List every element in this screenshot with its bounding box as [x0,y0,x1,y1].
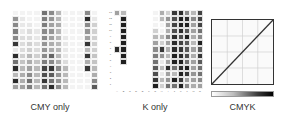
y-tick-label: 13 [108,12,113,15]
y-tick-label: 4 [108,66,113,69]
heatmap-cell [91,84,98,90]
y-tick-label: 3 [108,72,113,75]
heatmap-cell [197,83,203,89]
y-tick-label: 7 [108,48,113,51]
k-heatmap [114,10,203,89]
x-tick-label: N [197,91,203,94]
cmy-only-panel: CMY only [0,0,100,118]
y-tick-label: 12 [108,18,113,21]
y-tick-label: 9 [108,36,113,39]
tone-curve-graph [212,20,273,84]
heatmap-cell [33,84,40,90]
heatmap-cell [26,84,33,90]
y-tick-label: 1 [108,84,113,87]
y-tick-label: 5 [108,60,113,63]
heatmap-cell [19,84,26,90]
heatmap-cell [48,84,55,90]
k-only-caption: K only [120,102,190,112]
heatmap-cell [69,84,76,90]
y-tick-label: 8 [108,42,113,45]
y-tick-label: 10 [108,30,113,33]
cmyk-caption: CMYK [215,102,270,112]
y-tick-label: 11 [108,24,113,27]
gradient-bar [211,91,274,97]
heatmap-cell [55,84,62,90]
cmy-heatmap [12,10,98,90]
heatmap-cell [84,84,91,90]
k-only-panel: 13121110987654321 ABCDEFGHIJKLMN K only [100,0,207,118]
heatmap-cell [76,84,83,90]
tone-curve-line [212,20,273,84]
heatmap-cell [62,84,69,90]
y-tick-label: 2 [108,78,113,81]
cmy-only-caption: CMY only [15,102,85,112]
y-tick-label: 6 [108,54,113,57]
heatmap-cell [41,84,48,90]
heatmap-cell [12,84,19,90]
tone-curve-box [211,19,274,85]
